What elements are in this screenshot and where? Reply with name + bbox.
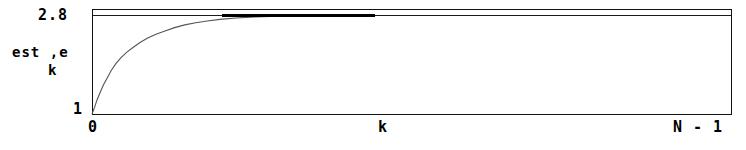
y-axis-label-line1: est ,e <box>12 44 69 60</box>
figure-root: 2.8 1 est ,e k 0 k N - 1 <box>0 0 746 150</box>
converged-curve-segment <box>222 14 375 17</box>
estimate-curve <box>92 15 374 114</box>
curve-plot <box>92 9 732 115</box>
x-axis-tick-max: N - 1 <box>673 118 723 136</box>
y-axis-label-subscript: k <box>48 62 57 78</box>
x-axis-tick-min: 0 <box>88 118 98 136</box>
y-axis-tick-min: 1 <box>73 100 83 118</box>
plot-area <box>92 9 732 115</box>
y-axis-tick-max: 2.8 <box>38 6 68 24</box>
x-axis-label: k <box>378 118 388 136</box>
